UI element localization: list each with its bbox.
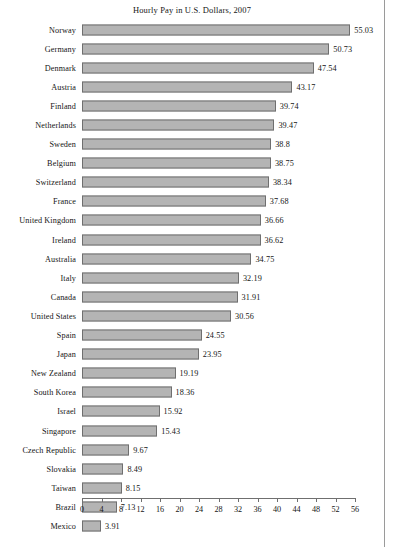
bar-value-label: 36.66 bbox=[265, 216, 284, 225]
chart-row: Belgium38.75 bbox=[0, 154, 384, 173]
bar-value-label: 15.92 bbox=[164, 407, 183, 416]
bar bbox=[82, 177, 269, 188]
page-edge-rule bbox=[384, 0, 385, 547]
x-axis-tick bbox=[316, 498, 317, 502]
bar bbox=[82, 43, 329, 54]
category-label: Israel bbox=[0, 407, 76, 416]
x-axis-tick-label: 16 bbox=[156, 505, 164, 514]
chart-row: Netherlands39.47 bbox=[0, 115, 384, 134]
chart-row: United States30.56 bbox=[0, 306, 384, 325]
bar bbox=[82, 330, 202, 341]
x-axis-tick bbox=[121, 498, 122, 502]
chart-row: Slovakia8.49 bbox=[0, 459, 384, 478]
x-axis: 048121620242832364044485256 bbox=[0, 498, 384, 538]
bar bbox=[82, 482, 122, 493]
x-axis-tick-label: 32 bbox=[234, 505, 242, 514]
category-label: Germany bbox=[0, 44, 76, 53]
x-axis-tick-label: 52 bbox=[331, 505, 339, 514]
bar bbox=[82, 349, 199, 360]
bar-value-label: 36.62 bbox=[265, 235, 284, 244]
category-label: Slovakia bbox=[0, 464, 76, 473]
bar-value-label: 37.68 bbox=[270, 197, 289, 206]
x-axis-tick-label: 44 bbox=[292, 505, 300, 514]
chart-row: Singapore15.43 bbox=[0, 421, 384, 440]
x-axis-tick bbox=[199, 498, 200, 502]
bar-value-label: 55.03 bbox=[354, 25, 373, 34]
x-axis-tick-label: 28 bbox=[214, 505, 222, 514]
chart-row: New Zealand19.19 bbox=[0, 364, 384, 383]
x-axis-tick bbox=[160, 498, 161, 502]
bar bbox=[82, 62, 314, 73]
category-label: New Zealand bbox=[0, 369, 76, 378]
bar bbox=[82, 444, 129, 455]
category-label: Switzerland bbox=[0, 178, 76, 187]
chart-row: Spain24.55 bbox=[0, 326, 384, 345]
bar-value-label: 24.55 bbox=[206, 331, 225, 340]
bar-value-label: 15.43 bbox=[161, 426, 180, 435]
bar bbox=[82, 158, 271, 169]
bar-value-label: 19.19 bbox=[180, 369, 199, 378]
chart-page: Hourly Pay in U.S. Dollars, 2007 Norway5… bbox=[0, 0, 397, 547]
category-label: Sweden bbox=[0, 140, 76, 149]
bar-value-label: 43.17 bbox=[296, 82, 315, 91]
bar-value-label: 38.75 bbox=[275, 159, 294, 168]
x-axis-tick-label: 4 bbox=[99, 505, 103, 514]
bar bbox=[82, 215, 261, 226]
bar-value-label: 23.95 bbox=[203, 350, 222, 359]
chart-row: Canada31.91 bbox=[0, 287, 384, 306]
bar-chart-plot-area: Norway55.03Germany50.73Denmark47.54Austr… bbox=[0, 20, 384, 498]
x-axis-tick bbox=[102, 498, 103, 502]
bar-value-label: 8.49 bbox=[127, 464, 142, 473]
x-axis-tick-label: 36 bbox=[253, 505, 261, 514]
bar bbox=[82, 24, 350, 35]
chart-row: Taiwan8.15 bbox=[0, 478, 384, 497]
category-label: United States bbox=[0, 311, 76, 320]
bar bbox=[82, 234, 261, 245]
chart-row: Switzerland38.34 bbox=[0, 173, 384, 192]
bar bbox=[82, 425, 157, 436]
chart-row: Sweden38.8 bbox=[0, 135, 384, 154]
x-axis-tick-label: 56 bbox=[351, 505, 359, 514]
bar-value-label: 38.8 bbox=[275, 140, 290, 149]
x-axis-tick bbox=[219, 498, 220, 502]
bar-value-label: 8.15 bbox=[126, 483, 141, 492]
bar bbox=[82, 100, 276, 111]
category-label: Ireland bbox=[0, 235, 76, 244]
bar bbox=[82, 291, 238, 302]
chart-row: Denmark47.54 bbox=[0, 58, 384, 77]
x-axis-tick-label: 24 bbox=[195, 505, 203, 514]
x-axis-tick-label: 20 bbox=[175, 505, 183, 514]
chart-row: Austria43.17 bbox=[0, 77, 384, 96]
bar-value-label: 32.19 bbox=[243, 273, 262, 282]
bar bbox=[82, 406, 160, 417]
bar bbox=[82, 196, 266, 207]
chart-row: South Korea18.36 bbox=[0, 383, 384, 402]
bar-value-label: 31.91 bbox=[242, 292, 261, 301]
category-label: Australia bbox=[0, 254, 76, 263]
bar bbox=[82, 81, 292, 92]
category-label: Belgium bbox=[0, 159, 76, 168]
x-axis-tick-label: 40 bbox=[273, 505, 281, 514]
x-axis-tick bbox=[297, 498, 298, 502]
bar-value-label: 38.34 bbox=[273, 178, 292, 187]
x-axis-tick bbox=[336, 498, 337, 502]
bar-value-label: 50.73 bbox=[333, 44, 352, 53]
bar bbox=[82, 120, 274, 131]
chart-row: Norway55.03 bbox=[0, 20, 384, 39]
bar bbox=[82, 139, 271, 150]
category-label: Austria bbox=[0, 82, 76, 91]
bar-value-label: 34.75 bbox=[255, 254, 274, 263]
category-label: Netherlands bbox=[0, 121, 76, 130]
bar-value-label: 39.74 bbox=[280, 101, 299, 110]
x-axis-tick bbox=[82, 498, 83, 502]
bar bbox=[82, 463, 123, 474]
bar bbox=[82, 272, 239, 283]
chart-row: Australia34.75 bbox=[0, 249, 384, 268]
chart-row: Ireland36.62 bbox=[0, 230, 384, 249]
x-axis-tick bbox=[238, 498, 239, 502]
chart-title: Hourly Pay in U.S. Dollars, 2007 bbox=[0, 5, 384, 15]
category-label: Denmark bbox=[0, 63, 76, 72]
category-label: United Kingdom bbox=[0, 216, 76, 225]
chart-row: Finland39.74 bbox=[0, 96, 384, 115]
category-label: Italy bbox=[0, 273, 76, 282]
